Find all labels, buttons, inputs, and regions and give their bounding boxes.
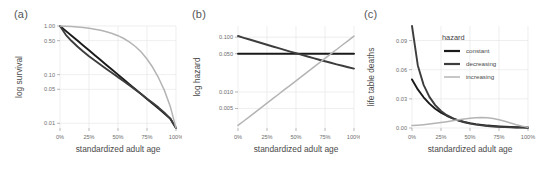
y-tick-label: 0.05 bbox=[44, 86, 55, 92]
y-tick-label: 0.01 bbox=[44, 120, 55, 126]
panel-c-label: (c) bbox=[364, 8, 377, 20]
legend-label-constant: constant bbox=[466, 47, 490, 54]
panel-b-plot: 0.1000.0500.0100.0050%25%50%75%100%stand… bbox=[182, 0, 360, 174]
x-tick-label: 50% bbox=[464, 134, 475, 140]
y-tick-label: 0.00 bbox=[396, 125, 407, 131]
panel-b: (b) 0.1000.0500.0100.0050%25%50%75%100%s… bbox=[182, 0, 360, 174]
y-tick-label: 0.09 bbox=[396, 38, 407, 44]
x-axis-title: standardized adult age bbox=[76, 144, 161, 154]
y-tick-label: 0.06 bbox=[396, 67, 407, 73]
x-axis-title: standardized adult age bbox=[254, 144, 339, 154]
x-tick-label: 25% bbox=[261, 134, 272, 140]
x-tick-label: 100% bbox=[169, 134, 182, 140]
y-tick-label: 0.10 bbox=[44, 72, 55, 78]
legend-title: hazard bbox=[442, 33, 465, 42]
y-tick-label: 0.005 bbox=[219, 105, 233, 111]
x-tick-label: 75% bbox=[493, 134, 504, 140]
x-tick-label: 75% bbox=[319, 134, 330, 140]
x-tick-label: 25% bbox=[83, 134, 94, 140]
panel-b-label: (b) bbox=[192, 8, 206, 20]
y-tick-label: 0.010 bbox=[219, 89, 233, 95]
panel-a-label: (a) bbox=[14, 8, 28, 20]
y-tick-label: 1.00 bbox=[44, 23, 55, 29]
legend-label-decreasing: decreasing bbox=[466, 60, 497, 67]
x-tick-label: 100% bbox=[347, 134, 360, 140]
x-tick-label: 75% bbox=[141, 134, 152, 140]
y-axis-title: log survival bbox=[14, 56, 24, 98]
x-axis-title: standardized adult age bbox=[428, 144, 513, 154]
panel-a: (a) 1.000.500.100.050.010%25%50%75%100%s… bbox=[0, 0, 182, 174]
x-tick-label: 100% bbox=[521, 134, 535, 140]
y-tick-label: 0.050 bbox=[219, 51, 233, 57]
y-tick-label: 0.100 bbox=[219, 34, 233, 40]
y-tick-label: 0.03 bbox=[396, 96, 407, 102]
x-tick-label: 0% bbox=[234, 134, 242, 140]
y-axis-title: log hazard bbox=[192, 57, 202, 96]
panel-c: (c) 0.090.060.030.000%25%50%75%100%stand… bbox=[360, 0, 545, 174]
y-tick-label: 0.50 bbox=[44, 38, 55, 44]
x-tick-label: 0% bbox=[408, 134, 416, 140]
panel-c-plot: 0.090.060.030.000%25%50%75%100%standardi… bbox=[360, 0, 545, 174]
panel-a-plot: 1.000.500.100.050.010%25%50%75%100%stand… bbox=[0, 0, 182, 174]
x-tick-label: 0% bbox=[56, 134, 64, 140]
x-tick-label: 25% bbox=[435, 134, 446, 140]
figure-container: (a) 1.000.500.100.050.010%25%50%75%100%s… bbox=[0, 0, 545, 174]
x-tick-label: 50% bbox=[112, 134, 123, 140]
legend-label-increasing: increasing bbox=[466, 73, 495, 80]
y-axis-title: life table deaths bbox=[366, 48, 376, 107]
x-tick-label: 50% bbox=[290, 134, 301, 140]
